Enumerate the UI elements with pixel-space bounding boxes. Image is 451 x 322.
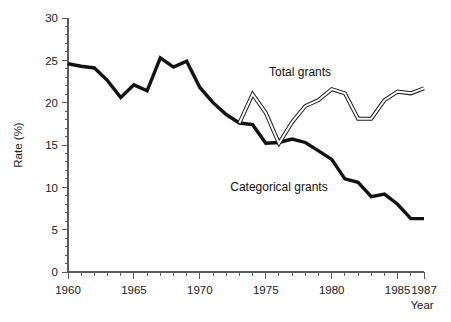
y-axis-tick-label: 30 (45, 12, 58, 24)
y-axis-tick-label: 10 (45, 182, 58, 194)
y-axis-tick-label: 5 (52, 224, 58, 236)
series-line-categorical-grants (68, 58, 424, 219)
y-axis-tick-label: 25 (45, 55, 58, 67)
y-axis-title: Rate (%) (12, 122, 24, 168)
series-label-total-grants: Total grants (269, 65, 331, 79)
y-axis-tick-label: 0 (52, 266, 58, 278)
x-axis-tick-labels: 1960196519701975198019851987 (55, 284, 437, 296)
line-chart-svg: 051015202530 196019651970197519801985198… (0, 0, 451, 322)
series-annotations: Total grants Categorical grants (230, 65, 331, 193)
y-axis-tick-label: 20 (45, 97, 58, 109)
x-axis-tick-label: 1980 (319, 284, 345, 296)
y-axis-tick-label: 15 (45, 139, 58, 151)
series-label-categorical-grants: Categorical grants (230, 180, 327, 194)
axes: 051015202530 196019651970197519801985198… (45, 12, 437, 296)
data-series (68, 58, 424, 219)
x-axis-tick-label: 1985 (385, 284, 411, 296)
x-axis-tick-label: 1970 (187, 284, 213, 296)
x-axis-tick-label: 1975 (253, 284, 279, 296)
x-axis-title: Year (410, 299, 433, 311)
x-axis-major-ticks (68, 272, 424, 279)
x-axis-tick-label: 1960 (55, 284, 81, 296)
y-axis-tick-labels: 051015202530 (45, 12, 58, 278)
x-axis-tick-label: 1965 (121, 284, 147, 296)
x-axis-tick-label: 1987 (411, 284, 437, 296)
y-axis-major-ticks (62, 18, 69, 272)
chart-container: 051015202530 196019651970197519801985198… (0, 0, 451, 322)
series-line-total-grants-fill (239, 88, 424, 143)
